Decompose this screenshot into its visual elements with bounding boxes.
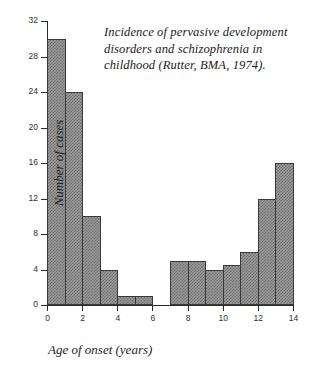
- x-tick-label: 14: [289, 313, 298, 323]
- histogram-bar: [135, 296, 154, 305]
- y-tick-label: 4: [33, 264, 38, 274]
- histogram-bar: [100, 270, 119, 306]
- histogram-bar: [117, 296, 136, 305]
- y-tick-label: 12: [29, 193, 38, 203]
- x-tick-label: 0: [45, 313, 50, 323]
- x-tick: 4: [117, 306, 118, 311]
- x-axis-label: Age of onset (years): [48, 342, 152, 358]
- x-tick: 14: [293, 306, 294, 311]
- x-tick: 6: [152, 306, 153, 311]
- x-tick-label: 6: [151, 313, 156, 323]
- x-tick-label: 4: [115, 313, 120, 323]
- histogram-figure: Incidence of pervasive development disor…: [0, 0, 318, 373]
- x-tick-label: 2: [80, 313, 85, 323]
- x-tick: 2: [82, 306, 83, 311]
- histogram-bar: [170, 261, 189, 305]
- plot-area: [47, 21, 293, 305]
- x-tick: 0: [47, 306, 48, 311]
- y-tick-label: 16: [29, 157, 38, 167]
- y-tick-label: 8: [33, 228, 38, 238]
- y-tick-label: 28: [29, 51, 38, 61]
- histogram-bar: [275, 163, 294, 305]
- x-tick: 8: [188, 306, 189, 311]
- histogram-bar: [205, 270, 224, 306]
- y-tick-label: 24: [29, 86, 38, 96]
- histogram-bar: [240, 252, 259, 305]
- x-tick-label: 8: [186, 313, 191, 323]
- histogram-bar: [188, 261, 207, 305]
- y-tick-label: 32: [29, 15, 38, 25]
- y-axis-label: Number of cases: [51, 98, 67, 228]
- histogram-bar: [258, 199, 277, 306]
- y-tick-label: 0: [33, 299, 38, 309]
- x-tick: 10: [223, 306, 224, 311]
- histogram-bar: [223, 265, 242, 305]
- x-tick: 12: [258, 306, 259, 311]
- x-tick-label: 10: [218, 313, 227, 323]
- histogram-bar: [82, 216, 101, 305]
- x-tick-label: 12: [254, 313, 263, 323]
- y-tick-label: 20: [29, 122, 38, 132]
- histogram-bar: [65, 92, 84, 305]
